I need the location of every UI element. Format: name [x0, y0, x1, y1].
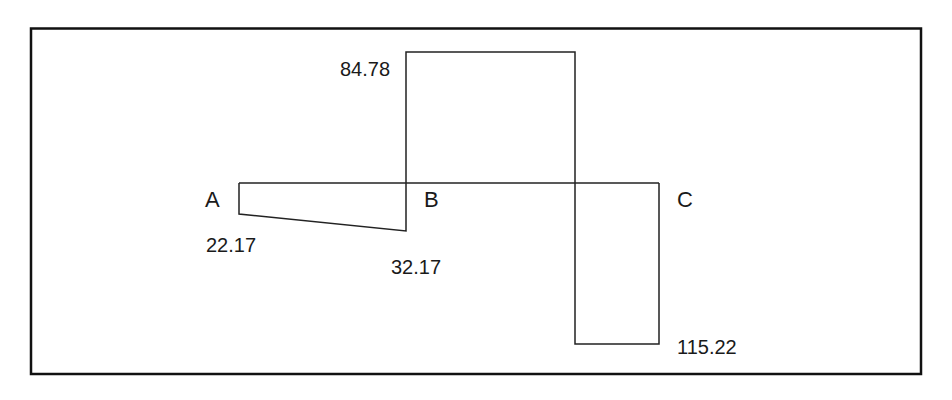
segment-ab-trapezoid [239, 183, 406, 231]
node-label-a: A [205, 189, 220, 211]
value-label-c-bottom: 115.22 [677, 337, 737, 357]
outer-frame [31, 29, 921, 375]
node-label-b: B [424, 189, 439, 211]
value-label-b-bottom: 32.17 [391, 257, 441, 277]
diagram-canvas [0, 0, 952, 400]
value-label-a-bottom: 22.17 [206, 235, 256, 255]
value-label-b-top: 84.78 [340, 59, 390, 79]
segment-c-bottom-rectangle [575, 183, 659, 344]
node-label-c: C [677, 189, 693, 211]
segment-b-top-rectangle [406, 52, 575, 183]
